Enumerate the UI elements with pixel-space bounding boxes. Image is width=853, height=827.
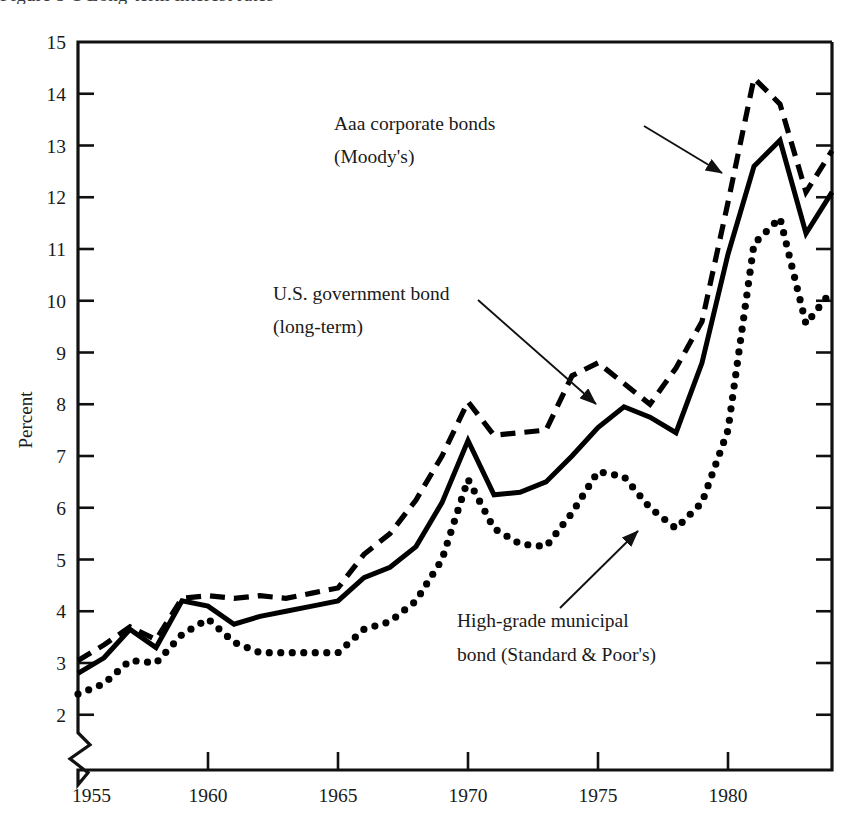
series-dot <box>600 469 607 476</box>
series-dot <box>187 626 194 633</box>
annotation-line-2: (Moody's) <box>334 146 414 168</box>
y-tick-label: 9 <box>56 343 66 364</box>
series-dot <box>704 482 711 489</box>
series-dot <box>652 509 659 516</box>
series-dot <box>559 521 566 528</box>
series-dot <box>410 599 417 606</box>
series-dot <box>224 633 231 640</box>
series-dot <box>458 496 465 503</box>
series-dot <box>132 657 139 664</box>
series-dot <box>487 518 494 525</box>
series-dot <box>323 649 330 656</box>
annotation-line-1: Aaa corporate bonds <box>334 113 495 134</box>
series-dot <box>352 634 359 641</box>
series-dot <box>783 240 790 247</box>
series-dot <box>435 561 442 568</box>
series-dot <box>670 523 677 530</box>
series-dot <box>748 257 755 264</box>
annotation-leader-arrow <box>560 531 638 608</box>
y-tick-label: 14 <box>47 84 67 105</box>
y-tick-label: 10 <box>47 291 67 312</box>
annotation-line-1: U.S. government bond <box>273 283 450 304</box>
series-dot <box>732 371 739 378</box>
series-dot <box>777 218 784 225</box>
annotation-leader-arrow <box>478 300 596 404</box>
y-tick-label: 3 <box>56 653 66 674</box>
series-dot <box>162 649 169 656</box>
series-dot <box>737 337 744 344</box>
series-dot <box>447 529 454 536</box>
series-dot <box>726 417 733 424</box>
series-dot <box>360 626 367 633</box>
series-dot <box>566 512 573 519</box>
series-dot <box>105 676 112 683</box>
annotation-municipal: High-grade municipalbond (Standard & Poo… <box>457 531 656 666</box>
x-tick-label: 1960 <box>189 785 228 806</box>
figure-container: Figure 5-1 Long-term interest rates 2345… <box>0 0 853 827</box>
series-dot <box>802 318 809 325</box>
series-dot <box>780 229 787 236</box>
series-dot <box>712 460 719 467</box>
annotation-line-1: High-grade municipal <box>457 610 629 631</box>
series-dot <box>755 236 762 243</box>
series-dot <box>266 649 273 656</box>
series-dot <box>822 295 829 302</box>
series-solid <box>78 140 832 673</box>
series-dot <box>536 542 543 549</box>
x-tick-label: 1965 <box>319 785 358 806</box>
series-dot <box>745 280 752 287</box>
series-dot <box>585 483 592 490</box>
series-dot <box>461 485 468 492</box>
series-dot <box>644 501 651 508</box>
series-dot <box>513 539 520 546</box>
series-dot <box>771 220 778 227</box>
series-dot <box>799 307 806 314</box>
series-dot <box>277 649 284 656</box>
series-dot <box>794 285 801 292</box>
series-dot <box>611 471 618 478</box>
series-dot <box>552 530 559 537</box>
series-dot <box>738 326 745 333</box>
figure-title-fragment: Figure 5-1 Long-term interest rates <box>0 0 500 4</box>
y-tick-label: 2 <box>56 705 66 726</box>
series-dot <box>742 303 749 310</box>
series-dot <box>74 690 81 697</box>
series-dot <box>254 648 261 655</box>
series-dot <box>382 619 389 626</box>
series-dot <box>178 632 185 639</box>
y-tick-label: 7 <box>56 446 66 467</box>
series-dot <box>454 507 461 514</box>
series-dot <box>695 503 702 510</box>
series-dot <box>401 606 408 613</box>
series-dot <box>815 304 822 311</box>
x-tick-label: 1980 <box>709 785 748 806</box>
series-dot <box>114 668 121 675</box>
series-dot <box>679 519 686 526</box>
series-dot <box>735 348 742 355</box>
series-dot <box>335 649 342 656</box>
series-dot <box>503 533 510 540</box>
y-tick-label: 5 <box>56 550 66 571</box>
series-dot <box>233 640 240 647</box>
series-dotted <box>74 218 829 698</box>
series-dot <box>392 614 399 621</box>
series-dot <box>788 263 795 270</box>
series-dot <box>796 296 803 303</box>
annotation-line-2: bond (Standard & Poor's) <box>457 644 656 666</box>
series-dot <box>622 475 629 482</box>
series-dot <box>197 620 204 627</box>
series-dot <box>785 251 792 258</box>
series-dot <box>808 313 815 320</box>
series-dot <box>524 541 531 548</box>
series-dot <box>122 660 129 667</box>
series-dot <box>343 641 350 648</box>
annotation-line-2: (long-term) <box>273 316 363 338</box>
series-dot <box>661 516 668 523</box>
series-dot <box>579 493 586 500</box>
interest-rates-line-chart: 23456789101112131415 1955196019651970197… <box>0 0 853 827</box>
series-dot <box>687 511 694 518</box>
series-dot <box>96 682 103 689</box>
series-dot <box>629 483 636 490</box>
annotation-leader-arrow <box>644 126 722 173</box>
series-dot <box>636 492 643 499</box>
